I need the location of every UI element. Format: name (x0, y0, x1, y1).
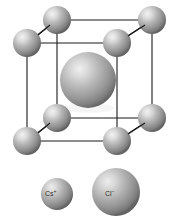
corner-sphere-front-top-right (103, 29, 131, 57)
corner-sphere-front-bottom-right (103, 127, 131, 155)
crystal-structure-figure: Cs+ Cl− (0, 0, 174, 221)
center-anion-body (60, 52, 116, 108)
corner-sphere-back-bottom-right (138, 104, 166, 132)
corner-sphere-front-top-left (13, 29, 41, 57)
corner-sphere-back-bottom-left (43, 104, 71, 132)
corner-sphere-back-top-right (138, 6, 166, 34)
legend-cl-sphere (92, 168, 140, 216)
corner-sphere-back-top-left (43, 6, 71, 34)
corner-sphere-front-bottom-left (13, 127, 41, 155)
legend-cs-sphere (41, 178, 73, 210)
crystal-structure-diagram (0, 0, 174, 221)
